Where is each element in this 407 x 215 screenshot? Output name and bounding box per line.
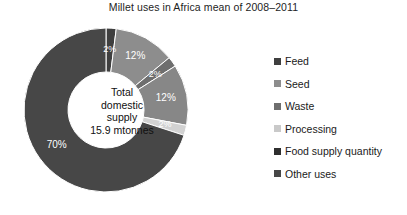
slice-value-label: 2%: [149, 69, 162, 79]
center-line-1: Total: [67, 86, 177, 99]
center-line-2: domestic: [67, 99, 177, 112]
legend-item-label: Other uses: [285, 168, 336, 180]
legend-swatch-icon: [274, 170, 281, 177]
legend-item-label: Waste: [285, 100, 314, 112]
legend-swatch-icon: [274, 125, 281, 132]
donut-chart: 2%12%2%12%2%70% Total domestic supply 15…: [17, 18, 197, 208]
center-summary-label: Total domestic supply 15.9 mtonnes: [67, 86, 177, 136]
slice-value-label: 70%: [47, 139, 67, 150]
legend-item[interactable]: Feed: [274, 50, 407, 73]
legend-swatch-icon: [274, 148, 281, 155]
slice-value-label: 2%: [103, 44, 116, 54]
center-line-4: 15.9 mtonnes: [67, 124, 177, 137]
legend-item-label: Feed: [285, 55, 309, 67]
legend-item-label: Seed: [285, 78, 310, 90]
legend-swatch-icon: [274, 103, 281, 110]
legend-item[interactable]: Processing: [274, 118, 407, 141]
chart-title: Millet uses in Africa mean of 2008–2011: [0, 1, 407, 14]
legend-item[interactable]: Seed: [274, 73, 407, 96]
legend-item[interactable]: Other uses: [274, 163, 407, 186]
center-line-3: supply: [67, 111, 177, 124]
legend-item-label: Food supply quantity: [285, 145, 382, 157]
chart-legend: FeedSeedWasteProcessingFood supply quant…: [274, 50, 407, 185]
legend-item-label: Processing: [285, 123, 337, 135]
legend-swatch-icon: [274, 58, 281, 65]
pie-chart-figure: Millet uses in Africa mean of 2008–2011 …: [0, 0, 407, 215]
slice-value-label: 12%: [125, 50, 145, 61]
legend-item[interactable]: Food supply quantity: [274, 140, 407, 163]
legend-swatch-icon: [274, 80, 281, 87]
legend-item[interactable]: Waste: [274, 95, 407, 118]
